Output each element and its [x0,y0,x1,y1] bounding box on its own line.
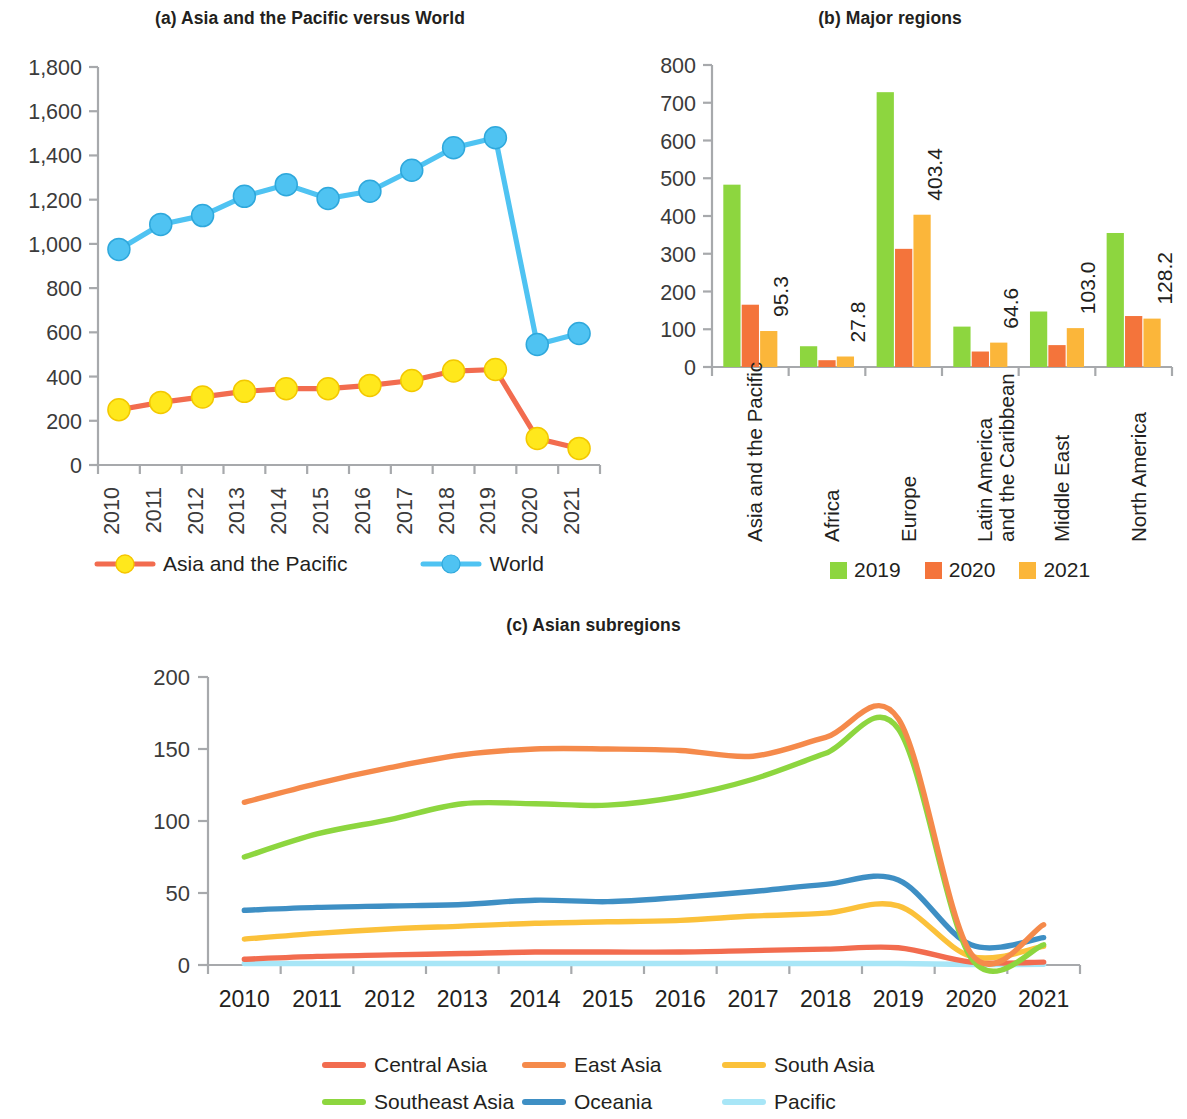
panel-a-legend: Asia and the Pacific World [95,552,544,576]
panel-a-series-line [119,369,579,448]
panel-b-bar [1107,233,1124,367]
panel-b-bar [723,185,740,367]
panel-a-x-tick: 2010 [100,487,124,535]
legend-swatch-2019 [830,562,847,579]
panel-c-y-tick: 150 [153,737,190,762]
legend-marker-asia-pacific [95,553,155,575]
panel-a-data-point [568,437,590,459]
panel-b-x-tick: and the Caribbean [995,373,1019,542]
panel-a-series-line [119,138,579,345]
panel-a-y-tick: 1,000 [28,233,82,257]
panel-a-y-tick: 1,600 [28,100,82,124]
panel-b-legend: 2019 2020 2021 [830,558,1090,582]
panel-a-y-tick: 200 [46,410,82,434]
panel-a-x-tick: 2014 [267,487,291,535]
panel-c-x-tick: 2020 [945,986,996,1012]
legend-item-central-asia[interactable]: Central Asia [322,1053,522,1077]
panel-b-y-tick: 200 [660,281,696,305]
legend-swatch-2020 [925,562,942,579]
panel-a-data-point [568,322,590,344]
panel-a-title: (a) Asia and the Pacific versus World [0,8,620,29]
panel-a-y-tick: 0 [70,454,82,478]
panel-c-x-tick: 2016 [655,986,706,1012]
panel-c-x-tick: 2010 [219,986,270,1012]
panel-b-y-tick: 0 [684,356,696,380]
panel-b-bar [1143,319,1160,367]
panel-a-data-point [192,386,214,408]
legend-label-east-asia: East Asia [574,1053,662,1077]
panel-a-data-point [526,333,548,355]
panel-a-y-tick: 600 [46,321,82,345]
panel-b-y-tick: 500 [660,167,696,191]
panel-a-x-tick: 2015 [309,487,333,535]
legend-line-central-asia [322,1062,366,1068]
panel-c-title: (c) Asian subregions [0,615,1187,636]
panel-a-x-tick: 2017 [393,487,417,535]
panel-a-x-tick: 2021 [560,487,584,535]
panel-a-data-point [484,127,506,149]
legend-item-south-asia[interactable]: South Asia [722,1053,922,1077]
legend-label-central-asia: Central Asia [374,1053,487,1077]
panel-c-x-tick: 2014 [509,986,560,1012]
legend-label-2021: 2021 [1043,558,1090,582]
panel-b-bar [953,327,970,367]
panel-c-series-line [244,706,1043,965]
panel-a-data-point [443,360,465,382]
legend-label-world: World [489,552,543,576]
panel-a-y-tick: 800 [46,277,82,301]
legend-item-2019[interactable]: 2019 [830,558,901,582]
panel-b-value-label: 128.2 [1153,252,1176,305]
panel-c-x-tick: 2013 [437,986,488,1012]
panel-b-x-tick: Africa [820,490,844,542]
legend-line-pacific [722,1099,766,1105]
panel-a-data-point [150,213,172,235]
panel-a-y-tick: 1,400 [28,144,82,168]
panel-c-y-tick: 100 [153,809,190,834]
panel-b-y-tick: 700 [660,92,696,116]
panel-c-y-tick: 200 [153,665,190,690]
legend-label-oceania: Oceania [574,1090,652,1114]
panel-a-data-point [233,380,255,402]
panel-b-y-tick: 300 [660,243,696,267]
legend-item-southeast-asia[interactable]: Southeast Asia [322,1090,522,1114]
panel-a-x-tick: 2018 [435,487,459,535]
panel-a-data-point [401,159,423,181]
panel-b-x-tick: North America [1127,412,1151,542]
legend-item-east-asia[interactable]: East Asia [522,1053,722,1077]
legend-line-oceania [522,1099,566,1105]
panel-a-data-point [150,391,172,413]
panel-a-x-tick: 2012 [184,487,208,535]
legend-label-southeast-asia: Southeast Asia [374,1090,514,1114]
legend-line-east-asia [522,1062,566,1068]
panel-a-chart-svg: 1,8001,6001,4001,2001,000800600400200020… [0,45,620,485]
legend-item-2021[interactable]: 2021 [1019,558,1090,582]
panel-a-data-point [484,358,506,380]
panel-b-x-tick: Asia and the Pacific [743,362,767,542]
panel-a-y-tick: 1,200 [28,189,82,213]
panel-c-plot: 0501001502002010201120122013201420152016… [0,645,1187,1025]
panel-b-plot: 010020030040050060070080095.327.8403.464… [620,45,1187,390]
panel-a-data-point [526,427,548,449]
legend-line-south-asia [722,1062,766,1068]
legend-item-oceania[interactable]: Oceania [522,1090,722,1114]
panel-a-data-point [317,378,339,400]
panel-a-data-point [192,205,214,227]
panel-b-x-tick: Middle East [1050,435,1074,542]
legend-item-2020[interactable]: 2020 [925,558,996,582]
panel-b-bar [913,215,930,367]
legend-line-southeast-asia [322,1099,366,1105]
panel-b-value-label: 95.3 [769,276,792,317]
panel-a-data-point [108,399,130,421]
panel-c-x-tick: 2011 [292,986,341,1012]
panel-c-chart-svg: 0501001502002010201120122013201420152016… [0,645,1187,1025]
legend-item-world[interactable]: World [421,552,543,576]
legend-label-2020: 2020 [949,558,996,582]
panel-b-bar [990,343,1007,367]
panel-c-series-line [244,947,1043,963]
panel-a-x-tick: 2011 [142,487,166,533]
legend-item-pacific[interactable]: Pacific [722,1090,922,1114]
panel-c-x-tick: 2012 [364,986,415,1012]
panel-a-data-point [275,378,297,400]
legend-item-asia-pacific[interactable]: Asia and the Pacific [95,552,347,576]
panel-a-data-point [233,185,255,207]
